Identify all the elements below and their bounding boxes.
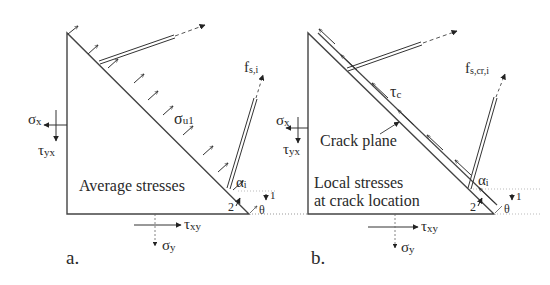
panel-caption: a.	[66, 247, 79, 268]
alpha-label: αi	[478, 172, 489, 188]
tau-yx-label: τyx	[38, 142, 56, 158]
axis-2-label: 2	[470, 200, 476, 214]
theta-label: θ	[259, 203, 265, 217]
axis-2-label: 2	[228, 200, 234, 214]
reinforcement-bar-upper	[347, 31, 457, 71]
sigma-y-label: σy	[401, 239, 415, 255]
reinforcement-bar-inclined	[468, 74, 505, 189]
reinforcement-bar-inclined	[227, 75, 263, 189]
sigma-x-label: σx	[276, 112, 290, 128]
tau-yx-label: τyx	[283, 141, 301, 157]
region-label-line2: at crack location	[314, 192, 420, 209]
normal-stress-label: σu1	[174, 110, 194, 127]
theta-label: θ	[504, 202, 510, 216]
reinforcement-bar-upper	[99, 25, 205, 64]
theta-arc	[250, 206, 257, 213]
panel-b: fs,cr,i τc Crack plane Local stresses at…	[276, 29, 540, 268]
sigma-y-label: σy	[162, 237, 176, 253]
normal-stress-arrows	[68, 26, 243, 190]
sigma-x-label: σx	[28, 111, 42, 127]
crack-plane-label: Crack plane	[320, 132, 397, 150]
stress-diagram: fs,i σu1 Average stresses αi 2 1 θ σx τy…	[0, 0, 550, 285]
tau-xy-label: τxy	[421, 218, 439, 234]
alpha-label: αi	[236, 174, 247, 190]
tau-xy-label: τxy	[184, 216, 202, 232]
region-label-line1: Local stresses	[314, 174, 403, 191]
panel-a: fs,i σu1 Average stresses αi 2 1 θ σx τy…	[28, 25, 276, 268]
axis-1-label: 1	[270, 189, 276, 201]
shear-stress-label: τc	[390, 83, 401, 100]
bar-force-label: fs,cr,i	[465, 60, 489, 76]
panel-caption: b.	[311, 247, 325, 268]
region-label: Average stresses	[79, 177, 185, 195]
theta-arc	[495, 206, 502, 213]
bar-force-label: fs,i	[244, 59, 258, 75]
axis-1-label: 1	[516, 190, 522, 202]
